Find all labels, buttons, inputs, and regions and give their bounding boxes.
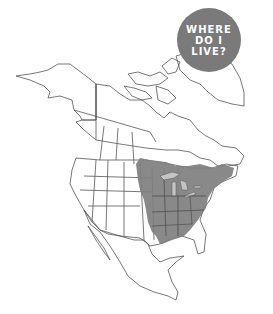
where-do-i-live-badge: WHERE DO I LIVE? xyxy=(177,8,241,72)
canada-outline xyxy=(76,84,244,166)
badge-line-2: DO I xyxy=(195,35,223,46)
badge-line-1: WHERE xyxy=(186,24,232,35)
alaska-outline xyxy=(16,64,96,120)
badge-line-3: LIVE? xyxy=(191,46,226,57)
species-range xyxy=(136,158,234,244)
lake-michigan xyxy=(172,182,176,196)
